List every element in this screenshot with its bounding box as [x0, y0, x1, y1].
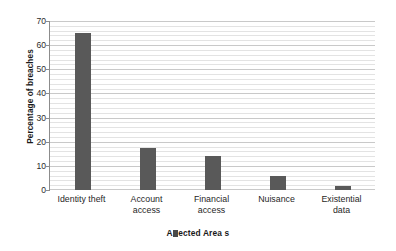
- bar-slot: [180, 21, 245, 190]
- bar-chart: Percentage of breaches 010203040506070 I…: [0, 0, 396, 251]
- bar-slot: [245, 21, 310, 190]
- x-axis-title: Aected Area s: [0, 228, 396, 238]
- bars-layer: [50, 21, 375, 190]
- x-axis-category-label: Nuisance: [244, 194, 309, 205]
- bar[interactable]: [335, 186, 351, 190]
- x-axis-category-labels: Identity theftAccount accessFinancial ac…: [49, 194, 374, 228]
- x-axis-category-label: Account access: [114, 194, 179, 215]
- plot-area: [49, 21, 375, 190]
- y-axis-tick-label: 60: [26, 41, 46, 50]
- y-axis-tick-label: 10: [26, 162, 46, 171]
- y-axis-tick-label: 30: [26, 113, 46, 122]
- x-axis-title-after: ected Area s: [178, 228, 229, 238]
- x-axis-category-label: Existential data: [309, 194, 374, 215]
- y-axis-tick-label: 70: [26, 17, 46, 26]
- x-axis-title-before: A: [167, 228, 173, 238]
- bar[interactable]: [205, 156, 221, 190]
- y-axis-tick-label: 40: [26, 89, 46, 98]
- bar-slot: [50, 21, 115, 190]
- y-axis-tick-label: 0: [26, 186, 46, 195]
- y-axis-tick-labels: 010203040506070: [26, 0, 46, 251]
- bar-slot: [115, 21, 180, 190]
- y-axis-tick-label: 20: [26, 137, 46, 146]
- x-axis-category-label: Identity theft: [49, 194, 114, 205]
- y-axis-tick-mark: [46, 190, 50, 191]
- y-axis-tick-label: 50: [26, 65, 46, 74]
- x-axis-category-label: Financial access: [179, 194, 244, 215]
- bar[interactable]: [75, 33, 91, 190]
- bar-slot: [310, 21, 375, 190]
- bar[interactable]: [270, 176, 286, 190]
- bar[interactable]: [140, 148, 156, 190]
